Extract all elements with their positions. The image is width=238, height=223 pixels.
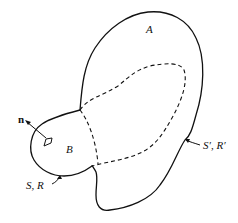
region-a-outer-boundary — [80, 12, 203, 211]
label-region-b: B — [66, 144, 73, 155]
surface-element — [44, 138, 52, 146]
region-b-boundary — [31, 110, 92, 176]
normal-vector-arrow — [27, 122, 46, 138]
label-normal-vector: n — [18, 114, 24, 125]
dashed-cross-boundary — [80, 110, 98, 164]
label-region-a: A — [146, 24, 153, 35]
diagram-canvas: A B n S, R S′, R′ — [0, 0, 238, 223]
label-surface-s-r: S, R — [26, 180, 44, 191]
label-surface-s-prime-r-prime: S′, R′ — [203, 140, 226, 151]
